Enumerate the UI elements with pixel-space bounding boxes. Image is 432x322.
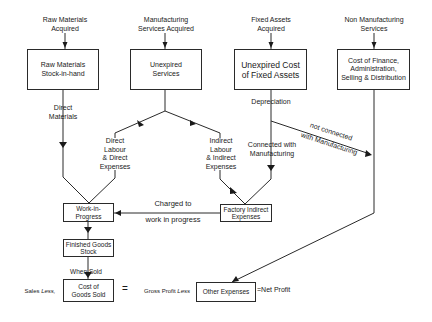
factory-indirect-expenses-box: Factory Indirect Expenses — [220, 204, 272, 222]
source-fixed-assets: Fixed Assets Acquired — [240, 16, 302, 33]
equation-gross-profit: Gross Profit Less — [140, 287, 194, 296]
unexpired-services-box: Unexpired Services — [130, 49, 202, 90]
source-manufacturing-services: Manufacturing Services Acquired — [130, 16, 202, 33]
gross-profit-text: Gross Profit — [144, 288, 176, 294]
finished-goods-stock-box: Finished Goods Stock — [63, 239, 114, 257]
net-profit-label: =Net Profit — [257, 286, 297, 295]
label-charged-to: Charged to — [143, 200, 203, 209]
work-in-progress-box: Work-in- Progress — [63, 203, 114, 222]
less-text: Less, — [41, 288, 55, 294]
label-depreciation: Depreciation — [246, 98, 296, 107]
label-direct-labour: Direct Labour & Direct Expenses — [97, 137, 133, 171]
label-direct-materials: Direct Materials — [45, 104, 81, 121]
source-non-manufacturing: Non Manufacturing Services — [338, 16, 410, 33]
equals-sign: = — [118, 285, 132, 294]
label-connected-manufacturing: Connected with Manufacturing — [244, 141, 300, 158]
cost-of-goods-sold-box: Cost of Goods Sold — [63, 279, 114, 302]
other-expenses-box: Other Expenses — [196, 282, 256, 302]
finance-admin-selling-box: Cost of Finance, Administration, Selling… — [337, 49, 410, 90]
label-work-in-progress: work in progress — [136, 216, 210, 225]
label-when-sold: When Sold — [66, 268, 106, 277]
raw-materials-stock-box: Raw Materials Stock-in-hand — [27, 49, 99, 90]
gross-profit-less-text: Less — [177, 288, 190, 294]
sales-text: Sales — [24, 288, 39, 294]
label-indirect-labour: Indirect Labour & Indirect Expenses — [201, 137, 241, 171]
equation-sales-less: Sales Less, — [20, 287, 60, 296]
source-raw-materials: Raw Materials Acquired — [35, 16, 95, 33]
unexpired-fixed-assets-box: Unexpired Cost of Fixed Assets — [234, 49, 307, 90]
